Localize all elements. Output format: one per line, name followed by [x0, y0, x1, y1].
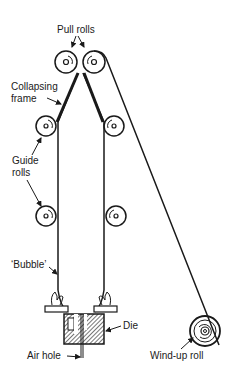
- air-ring-left: [45, 306, 68, 312]
- pull-roll-left: [55, 51, 77, 73]
- label-collapsing-frame-1: Collapsing: [11, 81, 58, 92]
- film-to-windup: [94, 51, 219, 345]
- guide-roll-lower-left: [36, 206, 56, 226]
- bubble-left-wall: [58, 73, 78, 312]
- label-air-hole: Air hole: [27, 350, 61, 361]
- guide-roll-upper-right: [104, 116, 124, 136]
- wind-up-roll: [190, 316, 220, 346]
- label-bubble: ‘Bubble’: [11, 259, 47, 270]
- guide-roll-upper-left: [36, 116, 56, 136]
- pull-rolls-arrow-right: [78, 36, 84, 47]
- bubble-right-wall: [83, 73, 104, 312]
- label-pull-rolls: Pull rolls: [57, 24, 95, 35]
- cooling-air-left-icon: [51, 292, 63, 305]
- label-collapsing-frame-2: frame: [11, 93, 37, 104]
- label-die: Die: [123, 320, 138, 331]
- die: [64, 314, 104, 358]
- air-hole-arrow: [67, 356, 80, 357]
- wind-up-roll-arrow: [181, 338, 193, 349]
- pull-roll-right: [83, 51, 105, 73]
- die-arrow: [106, 326, 121, 331]
- guide-roll-lower-right: [106, 206, 126, 226]
- guide-rolls-arrow-upper: [32, 138, 41, 155]
- collapsing-frame-arrow: [47, 98, 61, 104]
- blown-film-diagram: Pull rolls Collapsing frame Guide rolls …: [0, 0, 233, 377]
- pull-rolls-arrow-left: [72, 36, 76, 47]
- guide-rolls-arrow-lower: [27, 180, 41, 206]
- label-wind-up-roll: Wind-up roll: [150, 350, 203, 361]
- label-guide-rolls-2: rolls: [12, 167, 30, 178]
- label-guide-rolls-1: Guide: [12, 155, 39, 166]
- bubble-arrow: [49, 267, 57, 274]
- air-ring-right: [94, 306, 117, 312]
- cooling-air-right-icon: [99, 292, 111, 305]
